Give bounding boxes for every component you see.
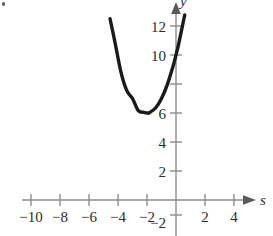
x-tick-label--10: −10 [19,209,42,225]
x-axis-arrowhead [243,195,256,205]
x-tick-label-4: 4 [230,209,238,225]
y-tick-label-10: 10 [151,48,166,64]
y-tick-label-6: 6 [159,106,167,122]
x-tick-label--6: −6 [81,209,97,225]
y-tick-label--2: −2 [150,215,166,231]
y-tick-label-4: 4 [159,135,167,151]
x-tick-label-2: 2 [201,209,209,225]
y-tick-label-12: 12 [151,19,166,35]
x-tick-label--4: −4 [110,209,126,225]
parabola-curve [110,15,185,113]
parabola-figure: −10 −8 −6 −4 −2 2 4 12 10 6 4 2 −2 s y [0,0,273,236]
x-tick-label--8: −8 [52,209,68,225]
graph-canvas: −10 −8 −6 −4 −2 2 4 12 10 6 4 2 −2 s y [0,0,273,236]
y-tick-labels: 12 10 6 4 2 −2 [150,19,166,231]
x-axis-label: s [260,192,266,208]
y-axis-label: y [178,0,187,9]
x-tick-labels: −10 −8 −6 −4 −2 2 4 [19,209,238,225]
y-tick-label-2: 2 [159,164,167,180]
axes-group [22,2,256,236]
